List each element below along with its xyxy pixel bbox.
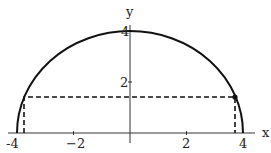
x-tick-label-m2: −2 [66, 136, 85, 151]
y-axis-label: y [125, 4, 134, 19]
x-tick-label-4: 4 [239, 136, 247, 151]
x-tick-label-2: 2 [182, 136, 190, 151]
y-tick-label-4: 4 [121, 24, 129, 39]
semicircle-diagram: y x -4 −2 2 4 2 4 [0, 0, 271, 153]
y-tick-label-2: 2 [120, 75, 128, 90]
marked-point [232, 94, 237, 99]
x-tick-label-m4: -4 [6, 136, 19, 151]
x-axis-label: x [262, 125, 270, 140]
